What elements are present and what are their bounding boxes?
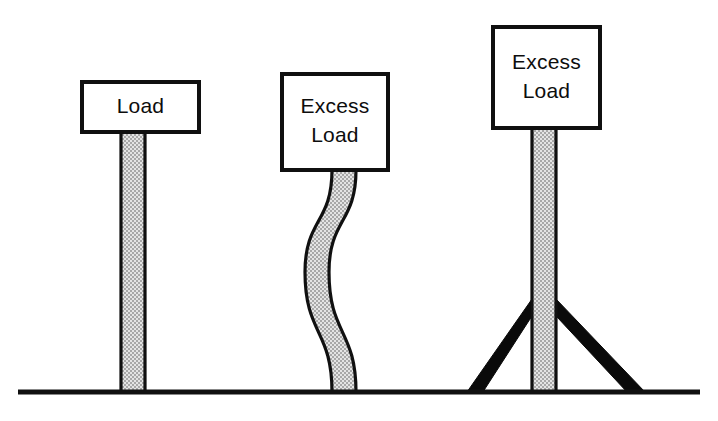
figure-container: Load Excess Load Excess Load xyxy=(0,0,718,421)
load-sign-straight-label-line-1: Load xyxy=(117,94,165,117)
column-shaft-braced xyxy=(532,128,556,392)
column-shaft-straight xyxy=(121,131,145,392)
column-buckling-diagram: Load Excess Load Excess Load xyxy=(0,0,718,421)
load-sign-buckled-label-line-2: Load xyxy=(311,123,359,146)
load-sign-braced-label-line-1: Excess xyxy=(512,50,581,73)
load-sign-braced xyxy=(493,27,600,128)
load-sign-buckled xyxy=(282,74,388,170)
load-sign-braced-label-line-2: Load xyxy=(523,79,571,102)
load-sign-buckled-label-line-1: Excess xyxy=(301,94,370,117)
